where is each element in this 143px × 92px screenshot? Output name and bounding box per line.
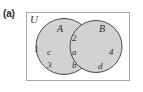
element-a-only-3: 3: [47, 61, 52, 70]
element-b-only-d: d: [98, 62, 103, 71]
set-b-circle: [70, 21, 122, 73]
element-intersection-b: b: [72, 61, 77, 70]
set-b-label: B: [99, 24, 105, 34]
venn-diagram-figure: (a) U A B 1 c 3 2 a b 4 d: [0, 0, 143, 92]
venn-circles-graphic: [26, 12, 130, 81]
element-a-only-1: 1: [34, 45, 39, 54]
element-a-only-c: c: [47, 48, 51, 57]
element-b-only-4: 4: [109, 48, 114, 57]
element-intersection-a: a: [72, 48, 77, 57]
figure-part-label: (a): [3, 9, 15, 19]
universal-set-label: U: [30, 14, 38, 25]
element-intersection-2: 2: [72, 34, 77, 43]
set-a-label: A: [57, 24, 63, 34]
